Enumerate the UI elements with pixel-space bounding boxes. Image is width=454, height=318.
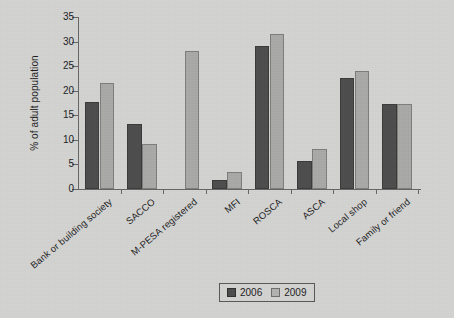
- bar-2006-1: [127, 124, 142, 189]
- x-axis-label: Local shop: [326, 196, 369, 235]
- x-tick-mark: [333, 189, 334, 194]
- y-axis-title: % of adult population: [29, 55, 40, 151]
- bar-2006-6: [340, 78, 355, 189]
- x-tick-mark: [163, 189, 164, 194]
- x-tick-mark: [121, 189, 122, 194]
- legend-swatch-2006: [227, 288, 236, 297]
- x-axis-line: [78, 189, 421, 190]
- y-tick-label: 5: [68, 157, 74, 170]
- x-tick-mark: [206, 189, 207, 194]
- x-tick-mark: [248, 189, 249, 194]
- y-tick-label: 25: [63, 59, 74, 72]
- y-tick-label: 15: [63, 108, 74, 121]
- x-tick-mark: [291, 189, 292, 194]
- bar-2009-1: [142, 144, 157, 189]
- x-axis-label: Bank or building society: [29, 196, 115, 270]
- bar-2009-6: [355, 71, 370, 189]
- bar-2009-5: [312, 149, 327, 189]
- x-axis-label: ASCA: [300, 196, 327, 221]
- x-axis-label: MFI: [222, 196, 242, 215]
- bar-2009-3: [227, 172, 242, 189]
- y-tick-label: 30: [63, 35, 74, 48]
- chart-legend: 20062009: [219, 283, 315, 302]
- bar-2006-5: [297, 161, 312, 190]
- bar-2006-3: [212, 180, 227, 189]
- plot-area: 05101520253035: [78, 17, 418, 189]
- bar-2006-0: [85, 102, 100, 189]
- y-tick-label: 35: [63, 10, 74, 23]
- legend-swatch-2009: [271, 288, 280, 297]
- x-tick-mark: [418, 189, 419, 194]
- bar-2009-7: [397, 104, 412, 189]
- x-axis-label: ROSCA: [251, 196, 284, 226]
- x-tick-mark: [376, 189, 377, 194]
- legend-item-2009: 2009: [271, 287, 306, 298]
- y-tick-label: 20: [63, 84, 74, 97]
- legend-item-2006: 2006: [227, 287, 262, 298]
- legend-label-2009: 2009: [284, 287, 306, 298]
- legend-label-2006: 2006: [240, 287, 262, 298]
- bar-2006-4: [255, 46, 270, 189]
- bar-2006-7: [382, 104, 397, 189]
- y-tick-label: 10: [63, 133, 74, 146]
- y-tick-label: 0: [68, 182, 74, 195]
- bar-2009-4: [270, 34, 285, 189]
- bar-2009-2: [185, 51, 200, 189]
- bar-2009-0: [100, 83, 115, 189]
- x-axis-label: SACCO: [123, 196, 156, 226]
- bar-chart: % of adult population 05101520253035 Ban…: [0, 0, 454, 318]
